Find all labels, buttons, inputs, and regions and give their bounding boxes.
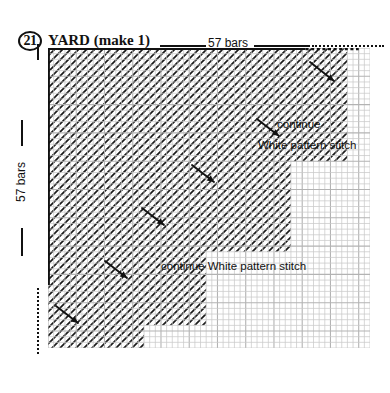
annotation-continue-white-pattern-stitch: continue White pattern stitch bbox=[161, 260, 306, 272]
stitch-chart-grid bbox=[48, 48, 370, 348]
annotation-white-pattern-stitch: White pattern stitch bbox=[258, 139, 356, 151]
pattern-chart-page: 21 YARD (make 1) 57 bars 57 bars bbox=[0, 0, 390, 393]
left-edge-tick-top bbox=[37, 44, 39, 60]
chart-header: 21 YARD (make 1) 57 bars bbox=[0, 14, 390, 44]
side-measure-rule-bottom bbox=[21, 228, 23, 256]
left-edge-dotted-line bbox=[37, 288, 39, 354]
top-measure-rule-left bbox=[160, 45, 206, 47]
side-measure: 57 bars bbox=[0, 120, 44, 290]
top-measure-rule-dotted bbox=[312, 45, 384, 47]
annotation-continue: continue bbox=[277, 118, 320, 130]
side-bar-count-label: 57 bars bbox=[14, 145, 28, 219]
side-measure-rule-top bbox=[21, 120, 23, 146]
page-title: YARD (make 1) bbox=[48, 32, 150, 49]
stitch-chart-svg bbox=[48, 48, 370, 348]
top-measure-rule-right bbox=[254, 45, 310, 47]
